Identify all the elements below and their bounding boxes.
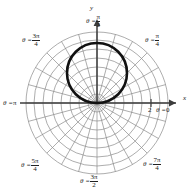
angle-label-theta-0-prefix: θ = — [156, 106, 166, 114]
grid-spoke-225 — [47, 103, 97, 153]
angle-label-theta-pi-over-4: θ =π4 — [145, 33, 159, 49]
fraction-denominator: 4 — [32, 41, 40, 48]
angle-label-theta-7pi-over-4-prefix: θ = — [143, 160, 153, 168]
angle-label-theta-3pi-over-2-prefix: θ = — [80, 177, 90, 185]
angle-label-theta-5pi-over-4: θ =5π4 — [21, 158, 39, 174]
angle-label-theta-7pi-over-4: θ =7π4 — [143, 157, 161, 173]
angle-label-theta-pi: θ =π — [3, 100, 16, 107]
fraction-denominator: 4 — [153, 165, 161, 172]
fraction-denominator: 4 — [31, 166, 39, 173]
angle-label-theta-5pi-over-4-fraction: 5π4 — [31, 158, 39, 174]
angle-label-theta-pi-over-2: θ =π2 — [86, 14, 100, 30]
angle-label-theta-pi-over-2-fraction: π2 — [96, 14, 101, 30]
angle-label-theta-3pi-over-4: θ =3π4 — [22, 33, 40, 49]
grid-spoke-45 — [97, 53, 147, 103]
y-axis-label: y — [90, 4, 93, 12]
fraction-denominator: 2 — [96, 22, 101, 29]
grid-spoke-210 — [36, 103, 97, 139]
grid-spoke-255 — [79, 103, 97, 172]
x-axis-tick-label-2: 2 — [148, 106, 152, 114]
grid-spoke-135 — [47, 53, 97, 103]
angle-label-theta-pi-prefix: θ = — [3, 99, 13, 107]
angle-label-theta-pi-over-4-prefix: θ = — [145, 36, 155, 44]
angle-label-theta-5pi-over-4-prefix: θ = — [21, 161, 31, 169]
x-axis-label: x — [183, 94, 186, 102]
fraction-denominator: 4 — [155, 41, 160, 48]
angle-label-theta-3pi-over-2-fraction: 3π2 — [90, 174, 98, 190]
fraction-denominator: 2 — [90, 182, 98, 189]
grid-spoke-300 — [97, 103, 133, 164]
grid-spoke-315 — [97, 103, 147, 153]
angle-label-theta-pi-over-4-fraction: π4 — [155, 33, 160, 49]
x-axis-arrowhead — [169, 100, 176, 107]
angle-label-theta-3pi-over-2: θ =3π2 — [80, 174, 98, 190]
angle-label-theta-3pi-over-4-fraction: 3π4 — [32, 33, 40, 49]
angle-label-theta-pi-over-2-prefix: θ = — [86, 17, 96, 25]
angle-label-theta-0-value: 0 — [166, 106, 170, 114]
grid-spoke-285 — [97, 103, 115, 172]
polar-plot-figure: θ =0 θ =π4 θ =π2 θ =3π4 θ =π θ =5π4 θ =3… — [0, 0, 195, 195]
grid-spoke-240 — [62, 103, 98, 164]
angle-label-theta-0: θ =0 — [156, 107, 169, 114]
angle-label-theta-3pi-over-4-prefix: θ = — [22, 36, 32, 44]
angle-label-theta-pi-value: π — [13, 99, 17, 107]
angle-label-theta-7pi-over-4-fraction: 7π4 — [153, 157, 161, 173]
grid-spoke-195 — [28, 103, 97, 121]
